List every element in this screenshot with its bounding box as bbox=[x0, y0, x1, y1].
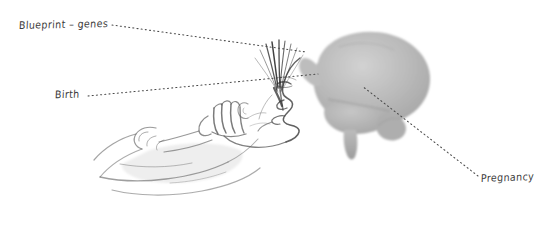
leader-line-blueprint bbox=[112, 25, 306, 52]
label-blueprint-genes: Blueprint – genes bbox=[19, 17, 109, 31]
label-birth: Birth bbox=[55, 88, 80, 101]
label-pregnancy: Pregnancy bbox=[481, 170, 535, 184]
illustration-canvas: Blueprint – genes Birth Pregnancy bbox=[0, 0, 555, 234]
brain-silhouette bbox=[299, 32, 430, 160]
illustration-artwork bbox=[0, 0, 555, 234]
